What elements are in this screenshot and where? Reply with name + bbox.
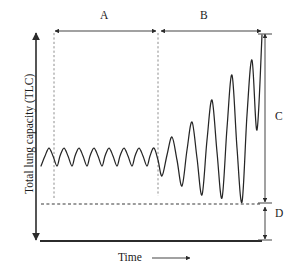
x-axis-label: Time xyxy=(118,252,142,264)
bracket-d-label: D xyxy=(275,208,283,220)
region-b-label: B xyxy=(200,10,208,22)
figure-canvas xyxy=(0,0,297,273)
bracket-c-label: C xyxy=(275,111,283,123)
respiratory-waveform-figure: Total lung capacity (TLC) A B C D Time xyxy=(0,0,297,273)
lung-volume-trace xyxy=(41,35,262,203)
region-a-label: A xyxy=(100,10,108,22)
y-axis-label: Total lung capacity (TLC) xyxy=(24,49,36,219)
